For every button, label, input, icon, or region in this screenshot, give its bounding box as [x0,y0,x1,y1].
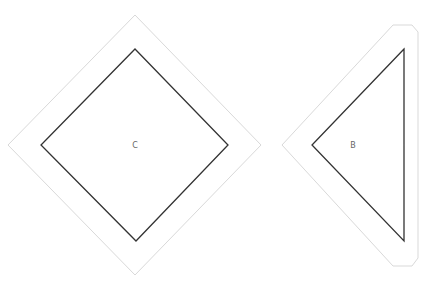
shape-c[interactable]: C [8,15,261,275]
shape-c-label: C [132,141,138,150]
shape-b-outline[interactable] [312,49,404,241]
diagram-canvas: C B [0,0,444,282]
shape-b[interactable]: B [282,25,418,266]
shape-b-label: B [350,141,356,150]
